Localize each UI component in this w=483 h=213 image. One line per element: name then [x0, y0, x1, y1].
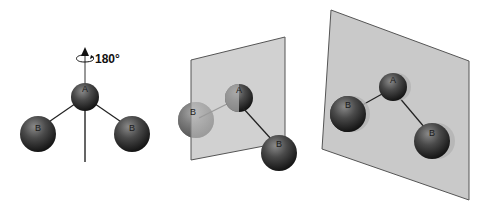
svg-text:B: B — [276, 139, 282, 149]
atom-b-left: B — [20, 116, 56, 152]
svg-text:A: A — [82, 84, 88, 94]
atom-a-central: A — [379, 73, 411, 101]
panel-mirror-plane-perpendicular: B A B — [178, 37, 297, 171]
atom-a-central: A — [225, 84, 253, 112]
svg-text:B: B — [35, 123, 41, 133]
svg-text:A: A — [236, 85, 242, 95]
atom-a-central: A — [71, 83, 99, 162]
atom-b-left-label: B — [190, 107, 196, 117]
atom-b-right: B — [261, 135, 297, 171]
atom-b-left: B — [330, 96, 370, 132]
atom-b-right: B — [114, 116, 150, 152]
symmetry-diagram: 180° B B A B A — [0, 0, 483, 213]
rotation-label: 180° — [95, 52, 120, 66]
panel-molecular-plane: B A B — [322, 10, 469, 200]
svg-text:B: B — [345, 100, 351, 110]
svg-text:B: B — [429, 128, 435, 138]
svg-text:A: A — [390, 75, 396, 85]
atom-b-right: B — [414, 123, 455, 159]
svg-text:B: B — [129, 123, 135, 133]
panel-c2-rotation: 180° B B A — [20, 47, 150, 162]
